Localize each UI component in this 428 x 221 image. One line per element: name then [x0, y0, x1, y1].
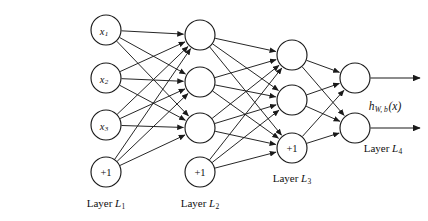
layer-label-L2: Layer L2: [181, 197, 220, 211]
connection-input-x1-to-hidden-l2-2: [120, 38, 186, 75]
output-node-1: [340, 63, 370, 93]
hidden-l2-3-circle: [185, 113, 215, 143]
connection-hidden-l3-1-to-output-node-2: [302, 67, 344, 116]
layer-label-L3: Layer L3: [273, 172, 312, 186]
network-canvas: x1x2x3+1+1+1 Layer L1Layer L2Layer L3Lay…: [0, 0, 428, 221]
layer-labels: Layer L1Layer L2Layer L3Layer L4: [87, 142, 403, 211]
connection-bias-l3-to-output-node-1: [302, 90, 344, 136]
hidden-l3-1-circle: [277, 40, 307, 70]
output-node-2: [340, 113, 370, 143]
hidden-l2-2: [185, 67, 215, 97]
layer-label-L4: Layer L4: [364, 142, 403, 156]
hidden-l2-1: [185, 20, 215, 50]
bias-l1: +1: [91, 157, 121, 187]
bias-l3-label: +1: [286, 143, 297, 154]
connection-bias-l3-to-output-node-2: [307, 133, 340, 143]
output-node-1-circle: [340, 63, 370, 93]
input-x2: x2: [91, 63, 121, 93]
connection-hidden-l2-3-to-hidden-l3-1: [212, 65, 279, 118]
connection-hidden-l3-1-to-output-node-1: [307, 60, 340, 72]
connection-input-x2-to-hidden-l2-1: [120, 42, 185, 72]
hidden-l3-2: [277, 85, 307, 115]
bias-l3: +1: [277, 133, 307, 163]
neural-network-diagram: x1x2x3+1+1+1 Layer L1Layer L2Layer L3Lay…: [0, 0, 428, 221]
bias-l1-label: +1: [100, 167, 111, 178]
connection-bias-l2-to-hidden-l3-2: [212, 110, 279, 162]
hidden-l3-2-circle: [277, 85, 307, 115]
output-node-2-circle: [340, 113, 370, 143]
input-x1: x1: [91, 15, 121, 45]
connection-hidden-l3-2-to-output-node-1: [307, 83, 340, 94]
input-x3: x3: [91, 110, 121, 140]
hidden-l2-2-circle: [185, 67, 215, 97]
bias-l2: +1: [185, 157, 215, 187]
hidden-l2-3: [185, 113, 215, 143]
bias-l2-label: +1: [194, 167, 205, 178]
connection-input-x1-to-hidden-l2-1: [121, 31, 183, 34]
hypothesis-label: hW, b(x): [369, 100, 402, 114]
connection-bias-l1-to-hidden-l2-1: [115, 49, 191, 160]
connection-bias-l2-to-bias-l3: [215, 152, 276, 168]
annotations: hW, b(x): [369, 100, 402, 114]
connection-bias-l1-to-hidden-l2-3: [120, 135, 185, 165]
hidden-l2-1-circle: [185, 20, 215, 50]
connection-hidden-l2-3-to-bias-l3: [215, 131, 276, 144]
network-nodes: x1x2x3+1+1+1: [91, 15, 370, 187]
connection-hidden-l2-1-to-hidden-l3-2: [213, 44, 279, 91]
connection-hidden-l2-1-to-hidden-l3-1: [215, 38, 276, 51]
hidden-l3-1: [277, 40, 307, 70]
layer-label-L1: Layer L1: [87, 197, 126, 211]
connection-bias-l2-to-hidden-l3-1: [210, 68, 282, 160]
connection-edges: [115, 31, 344, 168]
